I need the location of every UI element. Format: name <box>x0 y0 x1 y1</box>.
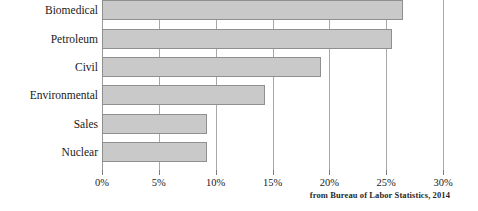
x-tick-label: 15% <box>253 177 293 188</box>
x-tick <box>216 170 217 175</box>
x-tick-label: 20% <box>309 177 349 188</box>
bar <box>102 114 207 134</box>
bar <box>102 29 392 49</box>
x-tick-label: 10% <box>196 177 236 188</box>
bar <box>102 142 207 162</box>
x-tick <box>386 170 387 175</box>
x-tick-label: 30% <box>423 177 463 188</box>
gridline-20 <box>329 0 330 170</box>
category-label: Environmental <box>0 89 98 101</box>
plot-area <box>102 0 443 170</box>
category-label: Biomedical <box>0 4 98 16</box>
x-tick-label: 0% <box>82 177 122 188</box>
gridline-25 <box>386 0 387 170</box>
category-label: Civil <box>0 61 98 73</box>
category-label: Petroleum <box>0 33 98 45</box>
x-tick-label: 5% <box>139 177 179 188</box>
category-label: Nuclear <box>0 146 98 158</box>
x-tick <box>102 170 103 175</box>
x-tick <box>159 170 160 175</box>
x-tick <box>443 170 444 175</box>
category-axis: BiomedicalPetroleumCivilEnvironmentalSal… <box>0 0 98 170</box>
bar-chart: BiomedicalPetroleumCivilEnvironmentalSal… <box>0 0 478 211</box>
gridline-15 <box>273 0 274 170</box>
bar <box>102 85 265 105</box>
bar <box>102 0 403 20</box>
chart-attribution: from Bureau of Labor Statistics, 2014 <box>310 190 450 200</box>
bar <box>102 57 321 77</box>
gridline-30 <box>443 0 444 170</box>
x-tick <box>329 170 330 175</box>
x-tick-label: 25% <box>366 177 406 188</box>
x-tick <box>273 170 274 175</box>
category-label: Sales <box>0 118 98 130</box>
